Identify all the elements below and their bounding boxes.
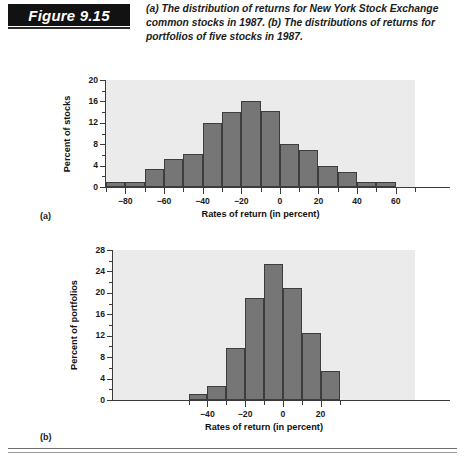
chart-b-y-tick bbox=[109, 304, 112, 305]
bottom-divider-secondary bbox=[8, 452, 457, 453]
chart-b-x-tick bbox=[264, 401, 265, 405]
histogram-bar bbox=[189, 394, 208, 400]
chart-b-y-tick bbox=[109, 282, 112, 283]
histogram-bar bbox=[321, 371, 340, 400]
chart-b-y-tick-label: 24 bbox=[79, 267, 105, 276]
histogram-bar bbox=[207, 386, 226, 400]
chart-b-x-tick-label: 0 bbox=[268, 410, 298, 419]
chart-b-y-tick bbox=[107, 400, 112, 401]
chart-b-y-tick bbox=[109, 346, 112, 347]
chart-b-x-tick-label: 20 bbox=[306, 410, 336, 419]
chart-b-y-tick bbox=[109, 389, 112, 390]
chart-b-x-tick bbox=[207, 401, 208, 407]
chart-b-y-axis bbox=[112, 250, 113, 400]
chart-b-x-tick-label: −40 bbox=[192, 410, 222, 419]
histogram-bar bbox=[245, 298, 264, 400]
chart-b-x-tick bbox=[283, 401, 284, 407]
chart-b-y-tick bbox=[109, 261, 112, 262]
chart-b-y-tick bbox=[107, 357, 112, 358]
chart-b-y-tick-label: 4 bbox=[79, 374, 105, 383]
chart-b-x-tick-label: −20 bbox=[230, 410, 260, 419]
chart-b-x-tick bbox=[302, 401, 303, 405]
chart-b-y-tick-label: 16 bbox=[79, 310, 105, 319]
chart-b: Rates of return (in percent) Percent of … bbox=[0, 0, 465, 463]
chart-b-y-tick-label: 28 bbox=[79, 246, 105, 255]
chart-b-y-tick bbox=[109, 368, 112, 369]
histogram-bar bbox=[302, 333, 321, 400]
chart-b-x-tick bbox=[226, 401, 227, 405]
chart-b-y-tick bbox=[107, 379, 112, 380]
chart-b-y-tick-label: 0 bbox=[79, 396, 105, 405]
chart-b-y-axis-title: Percent of portfolios bbox=[69, 280, 79, 370]
chart-b-y-tick bbox=[107, 293, 112, 294]
chart-b-x-tick bbox=[321, 401, 322, 407]
chart-b-y-tick bbox=[107, 271, 112, 272]
chart-b-y-tick bbox=[109, 325, 112, 326]
chart-b-x-tick bbox=[245, 401, 246, 407]
chart-b-y-tick bbox=[107, 314, 112, 315]
bottom-divider bbox=[8, 448, 457, 449]
histogram-bar bbox=[283, 288, 302, 401]
chart-b-x-axis-title: Rates of return (in percent) bbox=[113, 422, 415, 432]
chart-b-y-tick bbox=[107, 336, 112, 337]
chart-b-x-axis bbox=[112, 400, 450, 401]
chart-b-y-tick-label: 12 bbox=[79, 331, 105, 340]
chart-b-y-tick bbox=[107, 250, 112, 251]
histogram-bar bbox=[264, 264, 283, 400]
histogram-bar bbox=[226, 348, 245, 401]
chart-b-y-tick-label: 20 bbox=[79, 288, 105, 297]
chart-b-x-tick bbox=[189, 401, 190, 405]
chart-b-x-tick bbox=[340, 401, 341, 405]
panel-label-b: (b) bbox=[40, 432, 52, 442]
chart-b-y-tick-label: 8 bbox=[79, 353, 105, 362]
